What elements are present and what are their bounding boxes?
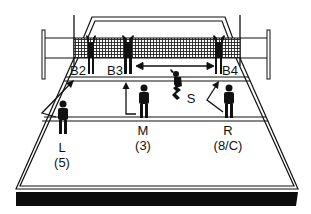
middle-back-move-arrow (126, 88, 136, 114)
left-back-label: L (58, 141, 65, 154)
right-back-number: (8/C) (214, 139, 243, 152)
setter-label: S (187, 92, 196, 105)
middle-back-figure (139, 85, 149, 119)
court-shadow (16, 192, 298, 206)
middle-back-label: M (138, 124, 149, 137)
left-back-figure (58, 101, 68, 135)
court-drawing (0, 0, 311, 214)
right-back-move-arrow (207, 86, 223, 112)
left-back-number: (5) (54, 156, 70, 169)
middle-back-number: (3) (135, 139, 151, 152)
setter-figure (170, 69, 182, 100)
blocker-shift-arrow (136, 63, 214, 70)
right-back-label: R (223, 124, 232, 137)
movement-arrows (42, 80, 223, 117)
right-back-figure (224, 85, 234, 119)
blocker-b2-label: B2 (70, 64, 86, 77)
blocker-b3-label: B3 (107, 64, 123, 77)
volleyball-court-diagram: B2 B3 B4 S L (5) M (3) R (8/C) (0, 0, 311, 214)
blocker-b4-label: B4 (222, 64, 238, 77)
